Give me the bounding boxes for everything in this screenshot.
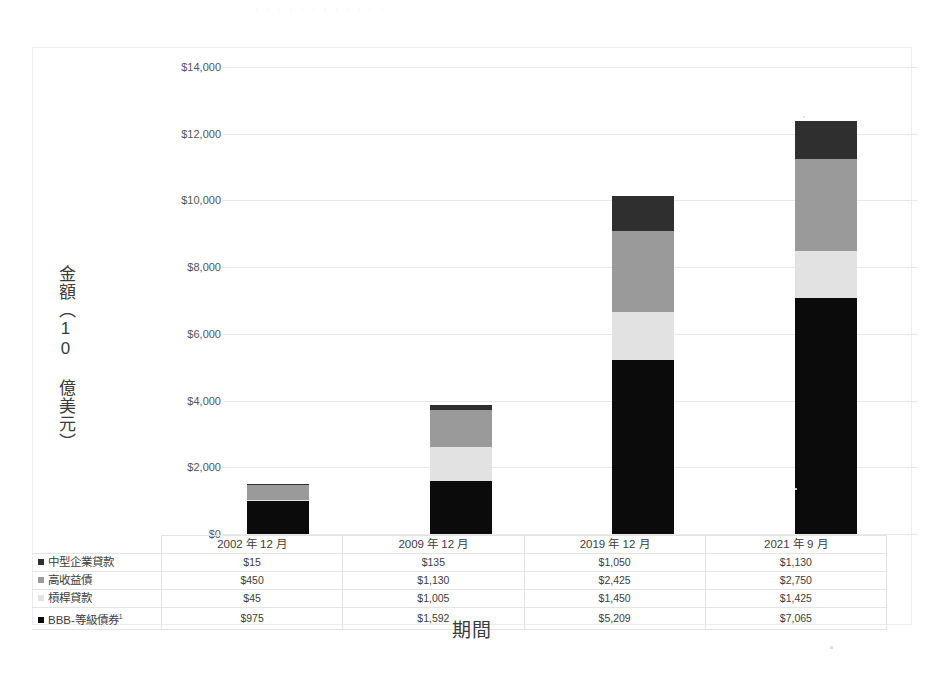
scan-speck xyxy=(830,646,833,649)
table-cell: $45 xyxy=(162,590,343,608)
table-cell: $450 xyxy=(162,572,343,590)
legend-swatch-icon xyxy=(38,559,44,565)
table-cell: $1,130 xyxy=(705,554,886,572)
legend-entry: 高收益債 xyxy=(32,572,162,590)
bar-segment xyxy=(430,481,492,534)
table-cell: $1,005 xyxy=(343,590,524,608)
table-corner-cell xyxy=(32,536,162,554)
bar-group xyxy=(247,67,309,534)
legend-entry: 槓桿貸款 xyxy=(32,590,162,608)
bar-group xyxy=(612,67,674,534)
bar-segment xyxy=(795,251,857,299)
bar-segment xyxy=(612,312,674,360)
y-axis-tick-label: $8,000 xyxy=(125,261,221,273)
clipped-title-remnant: · · · · · · · · · · · · xyxy=(255,2,695,11)
table-cell: $2,750 xyxy=(705,572,886,590)
bar-segment xyxy=(247,501,309,534)
bar-group xyxy=(430,67,492,534)
bar-segment xyxy=(612,360,674,534)
bar-segment xyxy=(247,485,309,500)
y-axis-tick-label: $2,000 xyxy=(125,461,221,473)
scan-speck xyxy=(803,116,805,118)
legend-entry: 中型企業貸款 xyxy=(32,554,162,572)
table-column-header: 2009 年 12 月 xyxy=(343,536,524,554)
bar-segment xyxy=(795,159,857,251)
legend-swatch-icon xyxy=(38,577,44,583)
table-header-row: 2002 年 12 月2009 年 12 月2019 年 12 月2021 年 … xyxy=(32,536,887,554)
y-axis-tick-label: $14,000 xyxy=(125,61,221,73)
table-cell: $2,425 xyxy=(524,572,705,590)
y-axis-title: 金額（10 億美元） xyxy=(48,265,74,451)
table-cell: $1,050 xyxy=(524,554,705,572)
table-row: 高收益債$450$1,130$2,425$2,750 xyxy=(32,572,887,590)
y-axis-tick-label: $6,000 xyxy=(125,328,221,340)
bar-segment xyxy=(795,298,857,534)
y-axis-tick-label: $12,000 xyxy=(125,128,221,140)
bar-segment xyxy=(247,500,309,502)
bar-segment xyxy=(612,196,674,231)
y-axis-tick-labels: $14,000$12,000$10,000$8,000$6,000$4,000$… xyxy=(121,67,221,534)
bar-segment xyxy=(612,231,674,312)
table-column-header: 2002 年 12 月 xyxy=(162,536,343,554)
table-cell: $135 xyxy=(343,554,524,572)
legend-label: 高收益債 xyxy=(48,574,92,586)
table-cell: $1,450 xyxy=(524,590,705,608)
table-row: 中型企業貸款$15$135$1,050$1,130 xyxy=(32,554,887,572)
bar-segment xyxy=(430,405,492,410)
table-row: 槓桿貸款$45$1,005$1,450$1,425 xyxy=(32,590,887,608)
x-axis-title: 期間 xyxy=(0,615,944,642)
bar-segment xyxy=(430,447,492,481)
bar-segment xyxy=(247,484,309,485)
table-column-header: 2019 年 12 月 xyxy=(524,536,705,554)
scan-speck xyxy=(795,488,797,490)
bar-segment xyxy=(430,410,492,448)
plot-area xyxy=(223,67,918,534)
table-cell: $15 xyxy=(162,554,343,572)
legend-swatch-icon xyxy=(38,595,44,601)
table-cell: $1,130 xyxy=(343,572,524,590)
legend-label: 中型企業貸款 xyxy=(48,556,114,568)
legend-label: 槓桿貸款 xyxy=(48,592,92,604)
table-column-header: 2021 年 9 月 xyxy=(705,536,886,554)
bar-segment xyxy=(795,121,857,159)
y-axis-tick-label: $10,000 xyxy=(125,194,221,206)
y-axis-tick-label: $4,000 xyxy=(125,395,221,407)
table-cell: $1,425 xyxy=(705,590,886,608)
bar-group xyxy=(795,67,857,534)
